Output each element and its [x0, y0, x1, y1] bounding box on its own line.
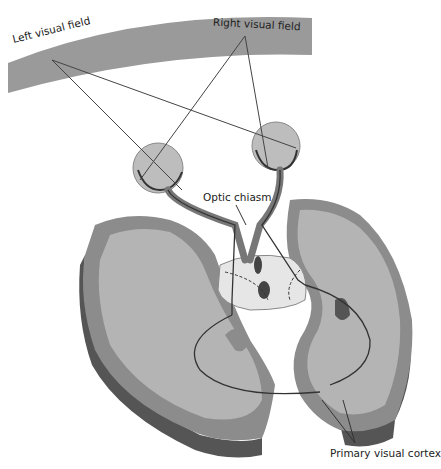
chiasm-pointer: [236, 205, 246, 225]
optic-chiasm-label: Optic chiasm: [203, 191, 272, 203]
left-eye: [133, 143, 183, 193]
optic-chiasm-region: [218, 255, 306, 310]
right-hemisphere: [287, 199, 413, 446]
primary-visual-cortex-label: Primary visual cortex: [330, 447, 441, 459]
right-eye: [252, 122, 300, 170]
